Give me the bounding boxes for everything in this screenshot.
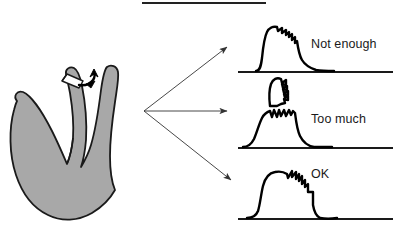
figure-root: Not enough Too much OK [0, 0, 401, 234]
arrow-to-not-enough [144, 47, 227, 111]
specimen-body [10, 66, 118, 220]
u-shaped-specimen [10, 66, 118, 220]
panel-label-not-enough: Not enough [311, 37, 377, 51]
panel-label-ok: OK [311, 167, 329, 181]
fan-arrow-group [144, 47, 231, 180]
panel-label-too-much: Too much [311, 112, 366, 126]
arrow-to-ok [144, 111, 231, 180]
detached-jagged-spike [269, 78, 288, 106]
